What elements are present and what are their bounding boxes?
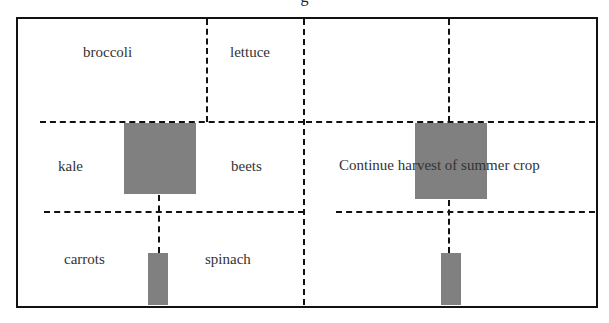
divider-right-top [448, 19, 450, 122]
label-broccoli: broccoli [83, 44, 132, 61]
divider-center [303, 19, 305, 305]
diagram-title-fragment: g [0, 0, 609, 6]
label-summer-note: Continue harvest of summer crop [339, 157, 540, 174]
gray-block-left-small [148, 253, 168, 305]
connector-left [158, 195, 160, 253]
row-divider-bottom-left [44, 211, 304, 213]
divider-broccoli-lettuce [206, 19, 208, 122]
label-kale: kale [58, 158, 83, 175]
label-spinach: spinach [205, 251, 251, 268]
gray-block-right-small [441, 253, 461, 305]
label-beets: beets [231, 158, 262, 175]
gray-block-left-large [124, 123, 196, 194]
label-carrots: carrots [64, 251, 105, 268]
label-lettuce: lettuce [230, 44, 270, 61]
row-divider-bottom-right [336, 211, 595, 213]
connector-right [448, 200, 450, 253]
